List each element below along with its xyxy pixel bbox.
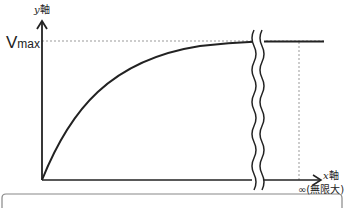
saturation-curve-diagram [0,0,353,208]
infinity-label: ∞(無限大) [298,185,344,195]
bottom-panel-border [2,194,342,208]
y-axis-label: y軸 [34,5,50,15]
vmax-label: Vmax [6,34,40,51]
x-axis-label: x軸 [323,171,339,181]
saturation-curve [42,42,258,181]
